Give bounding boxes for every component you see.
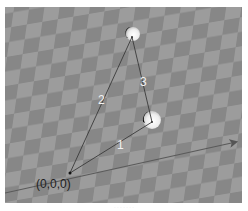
segment-3-label: 3 — [140, 75, 147, 89]
segment-2-label: 2 — [98, 93, 105, 107]
origin-label: (0,0,0) — [36, 177, 71, 191]
caption: · · · · · · · — [0, 203, 248, 211]
segment-1-label: 1 — [117, 138, 124, 152]
scene-canvas — [5, 7, 242, 203]
top-sphere-point — [131, 36, 133, 38]
scene-viewport — [5, 7, 242, 203]
lower-sphere-point — [151, 121, 153, 123]
origin-point — [69, 172, 72, 175]
